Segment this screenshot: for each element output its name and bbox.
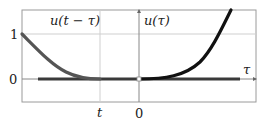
y-tick-zero: 0	[9, 72, 17, 87]
x-tick-t: t	[97, 105, 103, 120]
y-tick-one: 1	[10, 27, 18, 42]
x-tick-zero: 0	[135, 106, 143, 121]
origin-marker	[137, 77, 141, 81]
curve-u-t-minus-tau	[22, 34, 100, 79]
convolution-chart: u(t − τ) u(τ) 1 0 t 0 τ	[0, 0, 268, 124]
x-axis-label-tau: τ	[243, 62, 251, 77]
label-u-t-minus-tau: u(t − τ)	[50, 13, 100, 28]
label-u-tau: u(τ)	[144, 13, 170, 28]
